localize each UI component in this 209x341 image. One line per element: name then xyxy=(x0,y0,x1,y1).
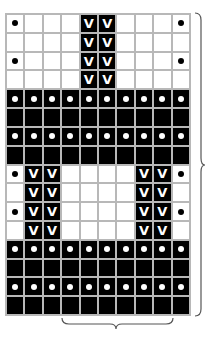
v-symbol-icon: V xyxy=(47,186,57,199)
grid-cell xyxy=(99,147,115,164)
grid-cell xyxy=(136,241,152,258)
grid-cell xyxy=(154,128,170,145)
dot-icon xyxy=(12,284,18,290)
grid-cell xyxy=(117,15,133,32)
grid-cell xyxy=(62,278,78,295)
grid-cell xyxy=(117,166,133,183)
dot-icon xyxy=(123,246,129,252)
grid-cell xyxy=(81,147,97,164)
grid-cell xyxy=(136,34,152,51)
grid-cell xyxy=(7,71,23,88)
grid-cell xyxy=(62,34,78,51)
dot-icon xyxy=(49,284,55,290)
grid-cell xyxy=(173,260,189,277)
grid-cell xyxy=(154,71,170,88)
v-symbol-icon: V xyxy=(157,167,167,180)
dot-icon xyxy=(178,58,184,64)
dot-icon xyxy=(12,171,18,177)
grid-cell: V xyxy=(81,15,97,32)
grid-cell xyxy=(99,109,115,126)
dot-icon xyxy=(12,96,18,102)
grid-cell xyxy=(81,109,97,126)
grid-cell xyxy=(62,71,78,88)
grid-cell xyxy=(7,260,23,277)
grid-cell xyxy=(44,15,60,32)
grid-cell xyxy=(173,222,189,239)
grid-cell xyxy=(173,184,189,201)
grid-cell xyxy=(44,128,60,145)
grid-cell xyxy=(136,278,152,295)
dot-icon xyxy=(12,209,18,215)
dot-icon xyxy=(86,284,92,290)
v-symbol-icon: V xyxy=(102,36,112,49)
dot-icon xyxy=(86,96,92,102)
grid-cell xyxy=(44,109,60,126)
dot-icon xyxy=(12,246,18,252)
grid-cell xyxy=(154,241,170,258)
grid-cell xyxy=(99,222,115,239)
grid-cell: V xyxy=(154,203,170,220)
dot-icon xyxy=(67,96,73,102)
grid-cell xyxy=(62,260,78,277)
grid-cell xyxy=(25,53,41,70)
grid-cell xyxy=(173,241,189,258)
grid-cell: V xyxy=(81,34,97,51)
grid-cell xyxy=(81,203,97,220)
grid-cell: V xyxy=(44,166,60,183)
grid-cell xyxy=(136,15,152,32)
grid-cell xyxy=(62,203,78,220)
v-symbol-icon: V xyxy=(102,73,112,86)
grid-cell: V xyxy=(44,203,60,220)
grid-cell xyxy=(44,260,60,277)
dot-icon xyxy=(159,133,165,139)
grid-cell xyxy=(173,109,189,126)
grid-cell xyxy=(62,166,78,183)
grid-cell: V xyxy=(154,222,170,239)
grid-cell xyxy=(81,222,97,239)
v-symbol-icon: V xyxy=(84,17,94,30)
grid-cell xyxy=(25,297,41,314)
dot-icon xyxy=(31,96,37,102)
grid-cell xyxy=(62,109,78,126)
grid-cell xyxy=(81,184,97,201)
dot-icon xyxy=(159,96,165,102)
dot-icon xyxy=(178,171,184,177)
grid-cell xyxy=(136,260,152,277)
grid-cell xyxy=(136,297,152,314)
grid-cell xyxy=(44,278,60,295)
dot-icon xyxy=(31,246,37,252)
grid-cell xyxy=(44,71,60,88)
v-symbol-icon: V xyxy=(29,186,39,199)
grid-cell xyxy=(62,297,78,314)
grid-cell xyxy=(136,90,152,107)
dot-icon xyxy=(123,96,129,102)
grid-cell: V xyxy=(136,166,152,183)
grid-cell: V xyxy=(99,34,115,51)
dot-icon xyxy=(104,284,110,290)
grid-cell xyxy=(44,34,60,51)
grid-cell xyxy=(154,297,170,314)
grid-cell xyxy=(117,278,133,295)
v-symbol-icon: V xyxy=(139,205,149,218)
dot-icon xyxy=(67,246,73,252)
grid-cell xyxy=(173,71,189,88)
grid-cell xyxy=(7,184,23,201)
grid-cell xyxy=(136,71,152,88)
grid-cell xyxy=(117,203,133,220)
grid-cell xyxy=(154,278,170,295)
bottom-brace xyxy=(60,316,176,334)
dot-icon xyxy=(159,246,165,252)
v-symbol-icon: V xyxy=(139,167,149,180)
v-symbol-icon: V xyxy=(84,73,94,86)
dot-icon xyxy=(86,246,92,252)
grid-cell xyxy=(136,128,152,145)
grid-cell xyxy=(7,203,23,220)
v-symbol-icon: V xyxy=(139,224,149,237)
dot-icon xyxy=(178,284,184,290)
dot-icon xyxy=(12,20,18,26)
grid-cell: V xyxy=(99,15,115,32)
grid-cell xyxy=(44,90,60,107)
grid-cell: V xyxy=(25,184,41,201)
grid-cell: V xyxy=(25,222,41,239)
grid-cell xyxy=(7,241,23,258)
